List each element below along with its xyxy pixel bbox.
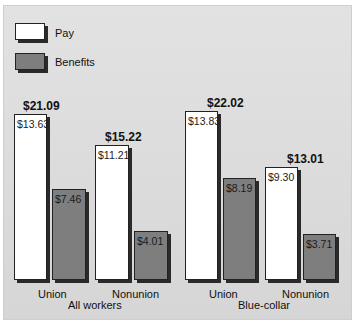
- bar-value: $7.46: [55, 193, 81, 205]
- bar-benefits: $3.71: [303, 234, 336, 280]
- bar-value: $4.01: [137, 235, 163, 247]
- bar-benefits: $7.46: [52, 189, 86, 280]
- group-label-all-workers: All workers: [68, 299, 122, 311]
- bar-pay: $9.30: [265, 167, 298, 280]
- legend-swatch-pay: [15, 23, 45, 40]
- legend-label-benefits: Benefits: [55, 56, 95, 68]
- bar-benefits: $8.19: [223, 178, 256, 280]
- x-label-union: Union: [38, 288, 67, 300]
- total-label: $15.22: [105, 130, 142, 144]
- x-label-union: Union: [209, 288, 238, 300]
- bar-value: $13.63: [17, 118, 49, 130]
- bar-value: $11.21: [98, 149, 129, 161]
- total-label: $22.02: [207, 96, 244, 110]
- total-label: $13.01: [287, 152, 324, 166]
- group-label-blue-collar: Blue-collar: [238, 299, 290, 311]
- bar-benefits: $4.01: [134, 231, 168, 280]
- bar-value: $3.71: [306, 238, 332, 250]
- bar-value: $8.19: [226, 182, 252, 194]
- bar-pay: $11.21: [95, 145, 129, 280]
- bar-value: $9.30: [268, 171, 294, 183]
- bar-pay: $13.63: [14, 114, 47, 280]
- legend-label-pay: Pay: [55, 27, 74, 39]
- bar-pay: $13.83: [185, 111, 218, 280]
- total-label: $21.09: [23, 99, 60, 113]
- legend-swatch-benefits: [15, 53, 45, 70]
- bar-value: $13.83: [188, 115, 220, 127]
